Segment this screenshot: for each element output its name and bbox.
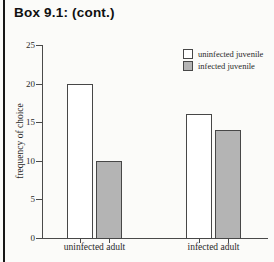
y-tick-label: 15	[11, 118, 35, 127]
bar-uninfected-juvenile-uninfected-adult	[67, 84, 93, 239]
legend-swatch	[183, 61, 193, 71]
y-tick	[36, 238, 42, 239]
y-tick-label: 25	[11, 41, 35, 50]
category-label: infected adult	[159, 242, 269, 252]
y-tick-label: 20	[11, 80, 35, 89]
y-tick-label: 5	[11, 195, 35, 204]
legend-item: infected juvenile	[183, 61, 263, 71]
bar-infected-juvenile-uninfected-adult	[96, 161, 122, 239]
y-axis	[42, 45, 43, 239]
legend-label: uninfected juvenile	[198, 50, 263, 59]
y-tick	[36, 122, 42, 123]
legend-swatch	[183, 49, 193, 59]
y-tick	[36, 161, 42, 162]
legend-label: infected juvenile	[198, 62, 255, 71]
y-tick	[36, 199, 42, 200]
bar-uninfected-juvenile-infected-adult	[186, 114, 212, 239]
category-label: uninfected adult	[40, 242, 150, 252]
y-tick-label: 0	[11, 234, 35, 243]
y-axis-title: frequency of choice	[15, 96, 25, 186]
legend-item: uninfected juvenile	[183, 49, 263, 59]
bar-infected-juvenile-infected-adult	[215, 130, 241, 239]
page: Box 9.1: (cont.) frequency of choice uni…	[0, 0, 274, 262]
y-tick	[36, 84, 42, 85]
y-tick	[36, 45, 42, 46]
y-tick-label: 10	[11, 157, 35, 166]
bar-chart: frequency of choice uninfected juvenilei…	[0, 0, 274, 262]
chart-legend: uninfected juvenileinfected juvenile	[183, 49, 263, 73]
